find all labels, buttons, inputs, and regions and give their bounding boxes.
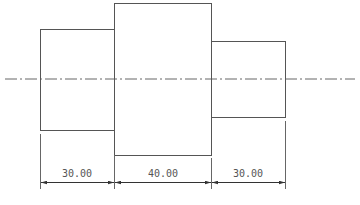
left-segment — [41, 30, 115, 131]
dimension-label-2: 40.00 — [148, 168, 178, 179]
shaft-drawing: 30.00 40.00 30.00 — [0, 0, 360, 205]
dimension-label-1: 30.00 — [62, 168, 92, 179]
dimension-label-3: 30.00 — [233, 168, 263, 179]
